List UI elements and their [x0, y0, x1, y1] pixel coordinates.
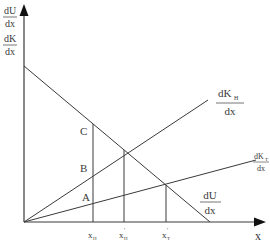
svg-text:dK: dK — [4, 33, 17, 44]
svg-text:dx: dx — [225, 105, 237, 117]
y-label-dk-dx: dK dx — [3, 33, 17, 57]
x-tick-xh-prime: x ' H — [119, 227, 128, 241]
svg-text:T: T — [167, 236, 170, 241]
svg-text:T: T — [265, 157, 268, 162]
svg-text:H: H — [93, 236, 97, 241]
dkt-dx-label: dK T dx — [253, 152, 269, 173]
svg-text:dx: dx — [5, 46, 15, 57]
svg-text:dx: dx — [257, 164, 265, 173]
svg-text:H: H — [234, 95, 239, 101]
svg-text:': ' — [124, 227, 125, 233]
dkh-dx-line — [24, 100, 208, 222]
svg-text:dU: dU — [203, 189, 217, 201]
x-axis-label: x — [255, 229, 261, 243]
y-label-du-dx: dU dx — [3, 5, 17, 29]
svg-text:': ' — [167, 227, 168, 233]
svg-text:dx: dx — [5, 18, 15, 29]
dkh-dx-label: dK H dx — [216, 87, 244, 117]
svg-text:H: H — [124, 236, 128, 241]
svg-text:dK: dK — [218, 87, 232, 99]
svg-text:dK: dK — [254, 152, 264, 161]
svg-text:dU: dU — [4, 5, 17, 16]
x-tick-xh: x H — [88, 230, 97, 241]
x-tick-xt-prime: x ' T — [162, 227, 170, 241]
y-axis-arrow-icon — [20, 4, 29, 16]
du-dx-line — [24, 66, 210, 222]
point-c-label: C — [80, 125, 87, 137]
x-axis-arrow-icon — [254, 218, 266, 227]
point-a-label: A — [82, 191, 90, 203]
du-dx-label: dU dx — [200, 189, 221, 216]
marginal-cost-benefit-diagram: dU dx dK dx dK H dx dK T dx dU dx C B A … — [0, 0, 270, 248]
svg-text:dx: dx — [205, 204, 217, 216]
point-b-label: B — [80, 162, 87, 174]
dkt-dx-line — [24, 160, 256, 222]
